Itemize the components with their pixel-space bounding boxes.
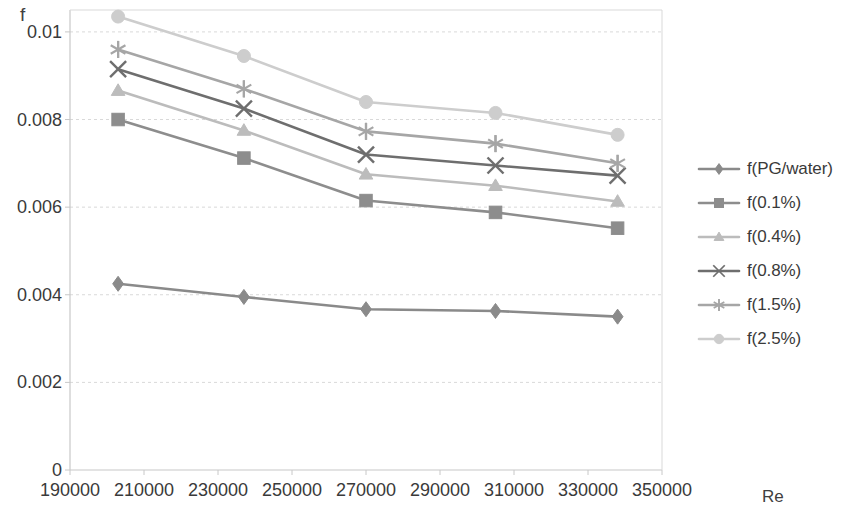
legend-marker-circle-icon <box>697 330 741 348</box>
x-axis-tick-label: 330000 <box>558 480 618 501</box>
x-axis-tick-label: 250000 <box>262 480 322 501</box>
x-axis-tick-label: 310000 <box>484 480 544 501</box>
x-axis-tick-label: 190000 <box>40 480 100 501</box>
y-axis-tick-label: 0.01 <box>0 21 62 42</box>
y-axis-tick-label: 0.006 <box>0 197 62 218</box>
marker-triangle <box>111 84 125 96</box>
marker-asterisk <box>111 41 126 58</box>
marker-diamond <box>612 309 623 324</box>
series-f-pg-water <box>113 276 623 324</box>
x-axis-title: Re <box>762 487 784 507</box>
y-axis-tick-label: 0.004 <box>0 284 62 305</box>
x-axis-tick-label: 210000 <box>114 480 174 501</box>
y-axis-tick-label: 0.002 <box>0 372 62 393</box>
legend-label: f(0.4%) <box>747 227 801 247</box>
marker-circle <box>714 334 723 343</box>
legend-marker-square-icon <box>697 194 741 212</box>
marker-diamond <box>715 164 723 175</box>
chart-container: f 00.0020.0040.0060.0080.01 190000210000… <box>0 0 854 523</box>
marker-square <box>238 152 251 165</box>
marker-cross <box>110 61 126 77</box>
chart-legend: f(PG/water)f(0.1%)f(0.4%)f(0.8%)f(1.5%)f… <box>697 152 852 356</box>
legend-item[interactable]: f(1.5%) <box>697 288 852 322</box>
marker-diamond <box>239 289 250 304</box>
legend-label: f(2.5%) <box>747 329 801 349</box>
marker-circle <box>360 96 373 109</box>
marker-diamond <box>490 303 501 318</box>
x-axis-tick-label: 290000 <box>410 480 470 501</box>
legend-marker-diamond-icon <box>697 160 741 178</box>
x-axis-tick-label: 350000 <box>632 480 692 501</box>
marker-circle <box>237 50 250 63</box>
marker-circle <box>112 10 125 23</box>
marker-circle <box>489 106 502 119</box>
legend-item[interactable]: f(0.8%) <box>697 254 852 288</box>
marker-asterisk <box>237 80 252 97</box>
legend-item[interactable]: f(0.4%) <box>697 220 852 254</box>
legend-item[interactable]: f(0.1%) <box>697 186 852 220</box>
series-f-2-5 <box>112 10 625 141</box>
marker-square <box>360 194 373 207</box>
legend-label: f(1.5%) <box>747 295 801 315</box>
legend-marker-asterisk-icon <box>697 296 741 314</box>
legend-marker-cross-icon <box>697 262 741 280</box>
legend-item[interactable]: f(2.5%) <box>697 322 852 356</box>
marker-square <box>611 222 624 235</box>
legend-item[interactable]: f(PG/water) <box>697 152 852 186</box>
x-axis-tick-label: 270000 <box>336 480 396 501</box>
legend-label: f(0.8%) <box>747 261 801 281</box>
marker-square <box>489 206 502 219</box>
y-axis-tick-label: 0.008 <box>0 109 62 130</box>
marker-diamond <box>113 276 124 291</box>
marker-square <box>715 199 724 208</box>
legend-marker-triangle-icon <box>697 228 741 246</box>
marker-circle <box>611 128 624 141</box>
marker-square <box>112 113 125 126</box>
marker-diamond <box>361 302 372 317</box>
legend-label: f(PG/water) <box>747 159 833 179</box>
legend-label: f(0.1%) <box>747 193 801 213</box>
x-axis-tick-label: 230000 <box>188 480 248 501</box>
y-axis-tick-label: 0 <box>0 460 62 481</box>
marker-cross <box>236 101 252 117</box>
series-line <box>118 17 617 135</box>
